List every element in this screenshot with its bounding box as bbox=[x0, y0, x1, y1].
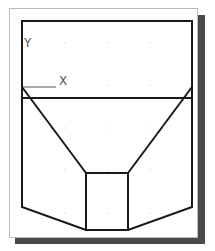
grid-dot bbox=[192, 213, 193, 214]
grid-dot bbox=[150, 170, 151, 171]
grid-dot bbox=[65, 43, 66, 44]
grid-dot bbox=[150, 43, 151, 44]
grid-dot bbox=[65, 128, 66, 129]
grid-dot bbox=[65, 170, 66, 171]
grid-dot bbox=[107, 213, 108, 214]
viewport-shadow-bottom bbox=[15, 237, 205, 244]
grid-dot bbox=[150, 213, 151, 214]
grid-dot bbox=[22, 213, 23, 214]
grid-dot bbox=[65, 213, 66, 214]
grid-dot bbox=[107, 170, 108, 171]
grid-dot bbox=[107, 128, 108, 129]
viewport-shadow-right bbox=[197, 15, 205, 244]
ucs-x-label: X bbox=[59, 75, 67, 87]
grid-dot bbox=[107, 43, 108, 44]
drawing-svg bbox=[0, 0, 215, 251]
ucs-y-label: Y bbox=[24, 37, 31, 49]
grid-dot bbox=[150, 85, 151, 86]
grid-dot bbox=[150, 128, 151, 129]
viewport-frame bbox=[10, 9, 198, 238]
drawing-viewport[interactable]: Y X bbox=[0, 0, 215, 251]
grid-dot bbox=[107, 85, 108, 86]
